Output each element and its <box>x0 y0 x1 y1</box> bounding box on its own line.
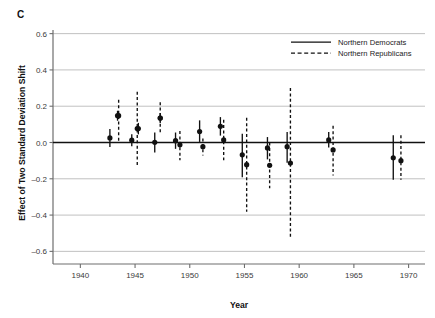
y-axis-title: Effect of Two Standard Deviation Shift <box>17 65 27 221</box>
data-point <box>391 155 396 160</box>
data-point <box>218 124 223 129</box>
data-point <box>197 129 202 134</box>
data-point <box>136 126 141 131</box>
y-axis-ticks-group: 0.60.40.20.0–0.2–0.4–0.6 <box>31 30 53 257</box>
figure-panel-c: C 1940194519501955196019651970 0.60.40.2… <box>0 0 435 318</box>
legend-label: Northern Democrats <box>338 38 407 47</box>
y-tick-label: 0.4 <box>36 66 48 75</box>
data-point <box>200 144 205 149</box>
y-tick-label: 0.0 <box>36 139 48 148</box>
data-point <box>173 138 178 143</box>
data-point <box>326 137 331 142</box>
data-point <box>107 135 112 140</box>
data-point <box>267 163 272 168</box>
data-point <box>177 142 182 147</box>
data-point <box>152 140 157 145</box>
y-tick-label: 0.2 <box>36 102 48 111</box>
x-tick-label: 1950 <box>181 271 199 280</box>
axis-spines-group <box>53 30 425 264</box>
series-northern-democrats <box>107 111 396 180</box>
x-axis-ticks-group: 1940194519501955196019651970 <box>71 264 418 280</box>
y-tick-label: –0.6 <box>31 247 47 256</box>
data-point <box>244 162 249 167</box>
y-tick-label: –0.2 <box>31 175 47 184</box>
x-tick-label: 1945 <box>126 271 144 280</box>
data-point <box>240 152 245 157</box>
data-point <box>265 145 270 150</box>
data-point <box>285 144 290 149</box>
x-tick-label: 1940 <box>71 271 89 280</box>
y-tick-label: –0.4 <box>31 211 47 220</box>
y-tick-label: 0.6 <box>36 30 48 39</box>
scatter-plot-canvas: 1940194519501955196019651970 0.60.40.20.… <box>0 0 435 318</box>
data-point <box>221 137 226 142</box>
data-point <box>158 115 163 120</box>
x-axis-title: Year <box>230 300 249 310</box>
legend-label: Northern Republicans <box>338 49 412 58</box>
x-tick-label: 1965 <box>345 271 363 280</box>
legend: Northern DemocratsNorthern Republicans <box>291 38 412 58</box>
x-tick-label: 1970 <box>400 271 418 280</box>
data-point <box>129 138 134 143</box>
data-point <box>288 160 293 165</box>
data-point <box>398 158 403 163</box>
x-tick-label: 1960 <box>290 271 308 280</box>
data-point <box>115 113 120 118</box>
x-tick-label: 1955 <box>236 271 254 280</box>
data-point <box>330 147 335 152</box>
